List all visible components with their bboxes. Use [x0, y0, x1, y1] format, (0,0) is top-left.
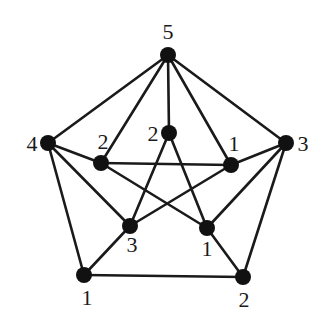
edge-layer — [48, 55, 286, 277]
edge-inner-left-inner-bottom-right — [101, 163, 207, 228]
node-outer-bottom-right — [235, 269, 251, 285]
node-inner-top — [161, 125, 177, 141]
edge-outer-bottom-left-outer-bottom-right — [84, 275, 243, 277]
node-outer-left — [40, 135, 56, 151]
edge-inner-bottom-left-outer-bottom-left — [84, 226, 130, 275]
node-label-outer-bottom-right: 2 — [239, 287, 250, 312]
node-label-inner-top: 2 — [148, 121, 159, 146]
edge-top-inner-top — [168, 55, 169, 133]
edge-inner-top-inner-bottom-right — [169, 133, 207, 228]
edge-top-inner-left — [101, 55, 168, 163]
node-label-inner-right: 1 — [229, 131, 240, 156]
node-outer-right — [278, 135, 294, 151]
edge-outer-left-inner-left — [48, 143, 101, 163]
node-label-outer-left: 4 — [27, 131, 38, 156]
edge-outer-right-outer-bottom-right — [243, 143, 286, 277]
node-top — [160, 47, 176, 63]
node-inner-bottom-right — [199, 220, 215, 236]
edge-inner-left-inner-right — [101, 163, 231, 165]
node-inner-right — [223, 157, 239, 173]
edge-top-inner-right — [168, 55, 231, 165]
edge-top-outer-right — [168, 55, 286, 143]
node-label-inner-left: 2 — [98, 129, 109, 154]
edge-inner-top-inner-bottom-left — [130, 133, 169, 226]
edge-outer-right-inner-bottom-right — [207, 143, 286, 228]
node-label-top: 5 — [163, 19, 174, 44]
node-label-inner-bottom-left: 3 — [127, 232, 138, 257]
node-label-inner-bottom-right: 1 — [202, 236, 213, 261]
node-label-outer-right: 3 — [298, 131, 309, 156]
node-inner-left — [93, 155, 109, 171]
node-label-outer-bottom-left: 1 — [82, 285, 93, 310]
node-outer-bottom-left — [76, 267, 92, 283]
graph-diagram: 5431222131 — [0, 0, 331, 326]
